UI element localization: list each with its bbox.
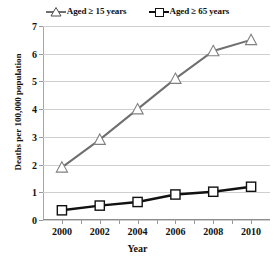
legend-item-aged-15[interactable]: Aged ≥ 15 years: [46, 6, 127, 17]
x-tick-label: 2004: [128, 226, 148, 237]
x-axis-title: Year: [0, 243, 275, 254]
chart-container: Aged ≥ 15 years Aged ≥ 65 years Deaths p…: [0, 0, 275, 262]
marker-triangle: [132, 104, 143, 114]
marker-square: [171, 190, 180, 199]
y-tick-label: 0: [32, 215, 37, 226]
legend-label-aged-15: Aged ≥ 15 years: [67, 6, 127, 16]
y-tick-label: 2: [32, 159, 37, 170]
y-axis-title: Deaths per 100,000 population: [13, 32, 23, 192]
marker-square: [133, 197, 142, 206]
x-tick-label: 2002: [90, 226, 110, 237]
legend-item-aged-65[interactable]: Aged ≥ 65 years: [149, 6, 230, 17]
legend-marker-square-icon: [149, 6, 169, 17]
y-tick-label: 4: [32, 104, 37, 115]
marker-triangle: [208, 45, 219, 55]
marker-layer: [43, 26, 270, 220]
marker-triangle: [170, 73, 181, 83]
marker-square: [209, 187, 218, 196]
x-tick-label: 2008: [203, 226, 223, 237]
marker-triangle: [245, 34, 256, 44]
y-tick-label: 3: [32, 131, 37, 142]
y-tick-label: 7: [32, 21, 37, 32]
y-tick-label: 5: [32, 76, 37, 87]
plot-area: 01234567 200020022004200620082010: [43, 26, 270, 220]
marker-triangle: [56, 162, 67, 172]
y-tick-label: 6: [32, 48, 37, 59]
marker-square: [246, 182, 255, 191]
chart-legend: Aged ≥ 15 years Aged ≥ 65 years: [0, 2, 275, 20]
marker-square: [95, 201, 104, 210]
y-tick: [39, 220, 43, 221]
marker-triangle: [94, 134, 105, 144]
x-tick-label: 2010: [241, 226, 261, 237]
y-tick-label: 1: [32, 187, 37, 198]
legend-label-aged-65: Aged ≥ 65 years: [170, 6, 230, 16]
x-tick-label: 2006: [165, 226, 185, 237]
marker-square: [57, 206, 66, 215]
legend-marker-triangle-icon: [46, 6, 66, 17]
x-tick-label: 2000: [52, 226, 72, 237]
